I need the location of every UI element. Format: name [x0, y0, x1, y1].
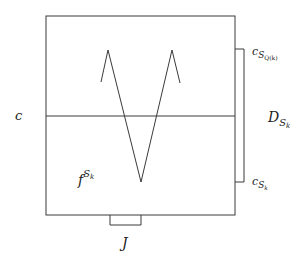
- right-bracket-D: [235, 49, 244, 182]
- label-c-sq: cSQ(k): [252, 45, 278, 61]
- label-c: c: [15, 108, 23, 123]
- bottom-bracket-J: [110, 215, 141, 225]
- diagram-canvas: c cSQ(k) DSk cSk fSk J: [0, 0, 301, 263]
- label-c-sk: cSk: [252, 175, 268, 191]
- label-J: J: [119, 235, 129, 251]
- label-D-sk: DSk: [267, 109, 290, 130]
- label-f-sk: fSk: [77, 168, 94, 188]
